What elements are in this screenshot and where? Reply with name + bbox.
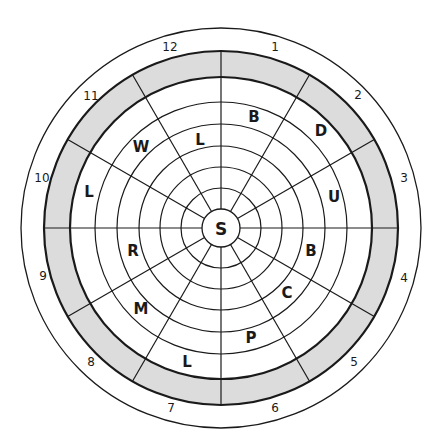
sector-letter: D (315, 122, 327, 140)
sector-letter: W (133, 138, 150, 156)
sector-number: 5 (350, 355, 358, 369)
sector-letter: L (182, 353, 192, 371)
sector-number: 7 (167, 401, 175, 415)
sector-letter: C (281, 284, 292, 302)
sector-letter: B (248, 108, 259, 126)
sector-number: 6 (271, 401, 279, 415)
sector-letter: L (84, 183, 94, 201)
center-hub: S (202, 209, 240, 247)
sector-number: 9 (39, 269, 47, 283)
sector-letter: M (134, 300, 149, 318)
center-label: S (215, 219, 227, 239)
sector-number: 3 (400, 171, 408, 185)
wheel-canvas: S BDUBCPLMRLWL 121234567891011 (0, 0, 440, 448)
sector-number: 12 (162, 40, 177, 54)
sector-letter: L (195, 131, 205, 149)
sector-number: 8 (87, 355, 95, 369)
sector-number: 11 (83, 89, 98, 103)
sector-letter: R (127, 242, 139, 260)
sector-number: 4 (400, 271, 408, 285)
sector-letter: P (246, 329, 257, 347)
sector-letter: B (305, 242, 316, 260)
sector-wheel-diagram: S BDUBCPLMRLWL 121234567891011 (0, 0, 440, 448)
sector-letter: U (328, 188, 340, 206)
sector-number: 1 (271, 40, 279, 54)
sector-number: 2 (354, 88, 362, 102)
sector-number: 10 (34, 171, 49, 185)
